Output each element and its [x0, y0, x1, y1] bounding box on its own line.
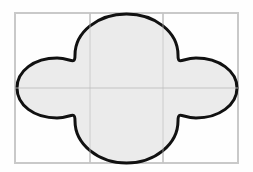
- figure-canvas: [0, 0, 253, 172]
- figure-svg: [0, 0, 253, 172]
